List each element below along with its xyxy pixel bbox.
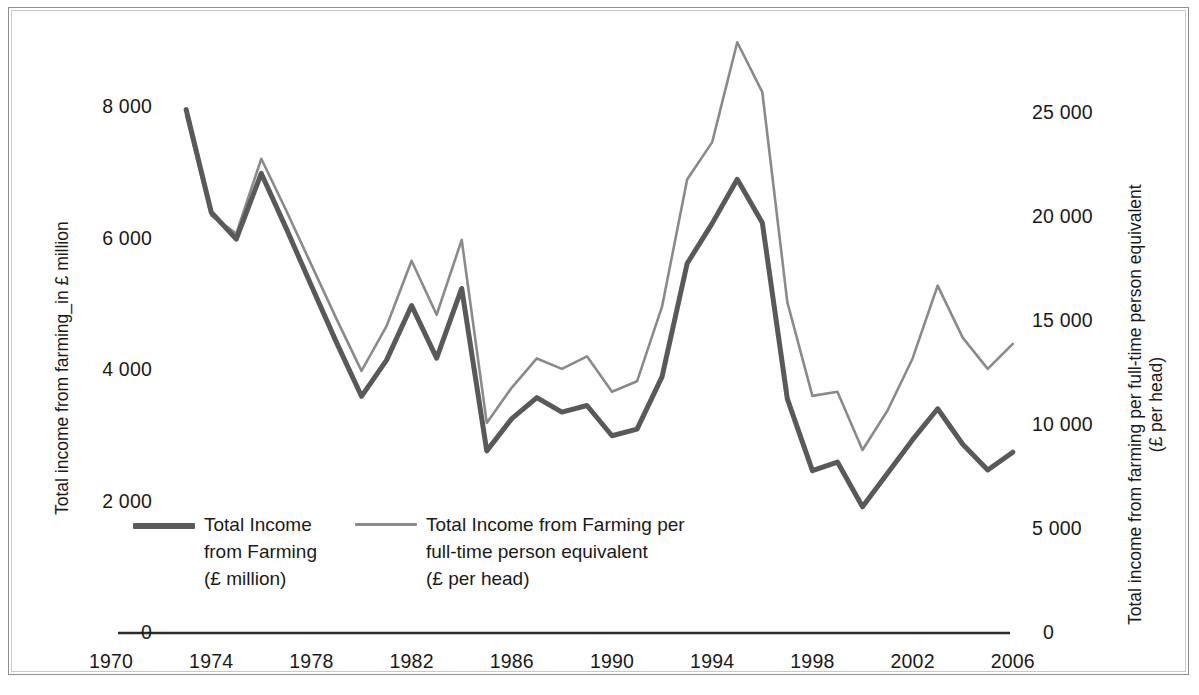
x-axis-tick-1974: 1974	[175, 652, 247, 672]
x-axis-tick-2002: 2002	[877, 652, 949, 672]
legend-label-line2: full-time person equivalent	[426, 539, 685, 566]
legend-label-total-income: Total Income from Farming (£ million)	[204, 512, 317, 593]
right-axis-tick-20000: 20 000	[1032, 207, 1093, 227]
legend-label-line1: Total Income from Farming per	[426, 512, 685, 539]
left-axis-tick-4000: 4 000	[102, 360, 152, 380]
x-axis-tick-2006: 2006	[977, 652, 1049, 672]
left-axis-tick-0: 0	[141, 623, 152, 643]
left-axis-title-line1: Total income from farming_in £ million	[52, 221, 72, 515]
right-axis-tick-25000: 25 000	[1032, 103, 1093, 123]
right-axis-title: Total income from farming per full-time …	[1125, 184, 1166, 625]
legend-label-line3: (£ million)	[204, 566, 317, 593]
series-line-total-income	[186, 110, 1013, 507]
legend-label-line3: (£ per head)	[426, 566, 685, 593]
chart-figure: Total income from farming_in £ million 8…	[0, 0, 1199, 695]
x-axis-tick-1994: 1994	[676, 652, 748, 672]
x-axis-tick-1986: 1986	[476, 652, 548, 672]
legend-line-swatch-total-income	[133, 523, 195, 529]
series-line-per-person	[186, 42, 1013, 450]
left-axis-tick-2000: 2 000	[102, 492, 152, 512]
chart-legend: Total Income from Farming (£ million) To…	[133, 512, 685, 593]
legend-item-per-person: Total Income from Farming per full-time …	[355, 512, 685, 593]
right-axis-tick-10000: 10 000	[1032, 415, 1093, 435]
legend-label-line1: Total Income	[204, 512, 317, 539]
legend-label-per-person: Total Income from Farming per full-time …	[426, 512, 685, 593]
right-axis-title-line2: (£ per head)	[1146, 184, 1167, 625]
x-axis-tick-1978: 1978	[275, 652, 347, 672]
left-axis-tick-6000: 6 000	[102, 229, 152, 249]
left-axis-title: Total income from farming_in £ million	[52, 221, 73, 515]
legend-line-swatch-per-person	[355, 523, 417, 526]
x-axis-tick-1982: 1982	[376, 652, 448, 672]
legend-label-line2: from Farming	[204, 539, 317, 566]
left-axis-tick-8000: 8 000	[102, 97, 152, 117]
right-axis-tick-5000: 5 000	[1032, 519, 1082, 539]
right-axis-title-line1: Total income from farming per full-time …	[1125, 184, 1145, 625]
x-axis-tick-1998: 1998	[776, 652, 848, 672]
legend-item-total-income: Total Income from Farming (£ million)	[133, 512, 317, 593]
x-axis-tick-1990: 1990	[576, 652, 648, 672]
right-axis-tick-0: 0	[1043, 623, 1054, 643]
right-axis-tick-15000: 15 000	[1032, 311, 1093, 331]
x-axis-tick-1970: 1970	[75, 652, 147, 672]
